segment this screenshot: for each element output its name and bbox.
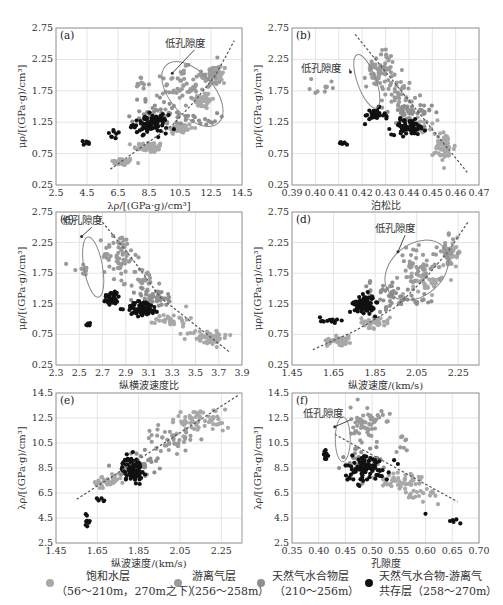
y-axis-label: μρ/[(GPa·g)/cm³]: [252, 65, 263, 149]
panel-label: (f): [296, 394, 308, 406]
legend-line1: 天然气水合物-游离气: [379, 570, 482, 584]
y-tick-label: 10.5: [268, 437, 289, 448]
panel-label: (e): [60, 394, 74, 406]
panel-e: (e)1.451.651.852.052.252.54.56.58.510.51…: [16, 387, 242, 569]
y-tick-label: 2.25: [268, 237, 289, 248]
y-tick-label: 4.5: [274, 512, 289, 523]
x-tick-label: 0.40: [308, 545, 329, 556]
y-tick-label: 2.25: [32, 53, 53, 64]
y-axis-label: λρ/[(GPa·g)/cm³]: [16, 426, 27, 510]
y-tick-label: 8.5: [274, 462, 289, 473]
figure-canvas: 低孔隙度(a)2.54.56.58.510.512.514.50.250.751…: [0, 0, 503, 605]
y-tick-label: 0.75: [268, 148, 289, 159]
x-tick-label: 0.45: [422, 187, 443, 198]
x-tick-label: 2.25: [211, 545, 232, 556]
x-tick-label: 0.50: [362, 545, 383, 556]
y-tick-label: 2.75: [268, 206, 289, 217]
legend-line1: 游离气层: [192, 570, 236, 584]
panel-label: (a): [60, 29, 74, 41]
x-tick-label: 2.05: [406, 367, 427, 378]
x-tick-label: 3.5: [188, 367, 203, 378]
panel-label: (b): [296, 29, 311, 41]
x-tick-label: 8.5: [141, 187, 156, 198]
legend-line2: （256～258m）: [184, 585, 269, 599]
legend-line1: 天然气水合物层: [272, 570, 349, 584]
panel-c: 低孔隙度(c)2.32.52.72.93.13.33.53.73.90.250.…: [16, 206, 250, 391]
y-tick-label: 1.25: [268, 116, 289, 127]
y-axis-label: μρ/[(GPa·g)/cm³]: [16, 65, 27, 149]
y-tick-label: 14.5: [32, 387, 53, 398]
y-tick-label: 2.5: [274, 537, 289, 548]
x-axis-label: λρ/[(GPa·g)/cm³]: [107, 200, 191, 211]
marker-dot-icon: [174, 579, 182, 587]
scatter-points: [64, 215, 232, 353]
x-tick-label: 3.9: [234, 367, 249, 378]
x-tick-label: 0.46: [445, 187, 466, 198]
x-tick-label: 3.7: [211, 367, 226, 378]
x-tick-label: 6.5: [110, 187, 125, 198]
x-tick-label: 1.85: [128, 545, 149, 556]
y-tick-label: 10.5: [32, 437, 53, 448]
x-tick-label: 12.5: [200, 187, 221, 198]
y-tick-label: 2.25: [32, 237, 53, 248]
x-tick-label: 0.41: [328, 187, 349, 198]
y-tick-label: 2.75: [268, 22, 289, 33]
annotation-label: 低孔隙度: [375, 222, 416, 234]
y-tick-label: 1.75: [32, 267, 53, 278]
annotation-label: 低孔隙度: [301, 62, 342, 74]
panel-label: (c): [60, 213, 74, 225]
y-tick-label: 2.75: [32, 206, 53, 217]
y-tick-label: 8.5: [38, 462, 53, 473]
x-tick-label: 0.45: [335, 545, 356, 556]
x-tick-label: 0.55: [388, 545, 409, 556]
y-tick-label: 12.5: [32, 412, 53, 423]
y-tick-label: 0.25: [32, 179, 53, 190]
y-tick-label: 2.5: [38, 537, 53, 548]
scatter-points: [308, 34, 468, 172]
panel-b: 低孔隙度(b)0.390.400.410.420.430.440.450.460…: [252, 22, 490, 211]
y-tick-label: 0.75: [268, 328, 289, 339]
y-axis-label: λρ/[(GPa·g)/cm³]: [252, 426, 263, 510]
x-tick-label: 4.5: [79, 187, 94, 198]
legend-line2: （56～210m，270m之下）: [56, 585, 199, 599]
x-tick-label: 2.25: [448, 367, 469, 378]
x-axis-label: 泊松比: [371, 199, 401, 211]
marker-dot-icon: [365, 579, 373, 587]
panel-f: 低孔隙度(f)0.350.400.450.500.550.600.650.702…: [252, 387, 490, 569]
gridlines: [56, 28, 242, 185]
annotation-label: 低孔隙度: [303, 407, 344, 419]
y-tick-label: 1.75: [268, 267, 289, 278]
annotation-label: 低孔隙度: [165, 37, 206, 49]
legend-line1: 饱和水层: [86, 570, 130, 584]
y-tick-label: 6.5: [274, 487, 289, 498]
x-tick-label: 0.42: [352, 187, 373, 198]
x-axis-label: 纵横波速度比: [119, 379, 179, 391]
y-tick-label: 2.25: [268, 53, 289, 64]
x-tick-label: 0.44: [398, 187, 419, 198]
x-tick-label: 2.9: [118, 367, 133, 378]
y-tick-label: 0.25: [268, 359, 289, 370]
panel-d: 低孔隙度(d)1.451.651.852.052.250.250.751.251…: [252, 206, 479, 391]
x-tick-label: 0.40: [305, 187, 326, 198]
y-tick-label: 0.75: [32, 148, 53, 159]
y-tick-label: 1.75: [32, 85, 53, 96]
y-tick-label: 0.25: [32, 359, 53, 370]
x-tick-label: 3.3: [165, 367, 180, 378]
panel-a: 低孔隙度(a)2.54.56.58.510.512.514.50.250.751…: [16, 22, 253, 211]
scatter-points: [322, 397, 463, 525]
y-tick-label: 12.5: [268, 412, 289, 423]
marker-dot-icon: [46, 579, 54, 587]
x-tick-label: 1.65: [87, 545, 108, 556]
trend-line: [77, 396, 238, 500]
x-axis-label: 孔隙度: [371, 557, 401, 569]
x-tick-label: 3.1: [141, 367, 156, 378]
x-tick-label: 0.43: [375, 187, 396, 198]
x-axis-label: 纵波速度/(km/s): [111, 557, 186, 569]
x-tick-label: 2.05: [169, 545, 190, 556]
x-tick-label: 2.7: [95, 367, 110, 378]
y-tick-label: 6.5: [38, 487, 53, 498]
x-tick-label: 0.65: [442, 545, 463, 556]
x-tick-label: 1.65: [323, 367, 344, 378]
y-tick-label: 0.75: [32, 328, 53, 339]
x-tick-label: 0.70: [468, 545, 489, 556]
